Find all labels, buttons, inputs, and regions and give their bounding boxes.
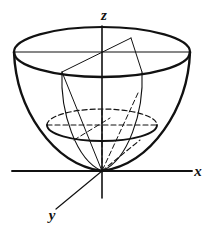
silhouette-right-curve (102, 52, 190, 171)
hidden-lines-group (74, 93, 138, 171)
hidden-generator-left (74, 118, 110, 140)
chord-rim-to-right-meridian (131, 38, 142, 72)
silhouette-left-curve (14, 52, 102, 171)
y-axis-line (56, 171, 102, 209)
y-axis-label: y (47, 207, 56, 223)
x-axis-label: x (193, 163, 202, 179)
chord-rim-to-left-meridian (62, 38, 131, 72)
figure-container: x y z (0, 0, 217, 234)
z-axis-label: z (100, 7, 107, 23)
paraboloid-diagram: x y z (0, 0, 217, 234)
meridian-right-front (102, 72, 142, 171)
